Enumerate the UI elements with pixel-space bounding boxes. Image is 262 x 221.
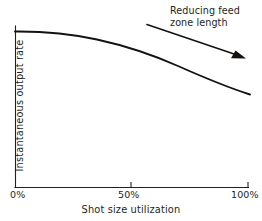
annotation-label: Reducing feed zone length — [170, 5, 256, 28]
x-axis-title: Shot size utilization — [0, 204, 262, 215]
annotation-label-line2: zone length — [170, 17, 256, 29]
annotation-arrow-line — [147, 25, 237, 56]
x-tick-label-50: 50% — [118, 189, 139, 200]
output-rate-curve — [15, 31, 250, 94]
y-axis-title: Instantaneous output rate — [14, 31, 25, 181]
x-tick-label-100: 100% — [231, 189, 259, 200]
annotation-arrow-head — [231, 51, 246, 59]
chart-figure: 0% 50% 100% Shot size utilization Instan… — [0, 0, 262, 221]
annotation-label-line1: Reducing feed — [170, 5, 256, 17]
chart-plot-area — [0, 0, 262, 221]
x-tick-label-0: 0% — [10, 189, 25, 200]
